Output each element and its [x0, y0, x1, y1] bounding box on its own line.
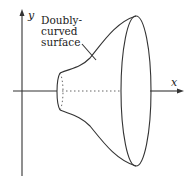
- annotation-leader-line: [82, 44, 96, 60]
- x-axis-label: x: [171, 76, 178, 89]
- x-axis-arrow-icon: [177, 89, 184, 94]
- y-axis-arrow-icon: [20, 9, 25, 16]
- small-end-hidden-edge: [60, 73, 63, 110]
- doubly-curved-surface-diagram: y x Doubly- curved surface: [0, 0, 189, 181]
- annotation-line-3: surface: [41, 36, 80, 48]
- y-axis-label: y: [27, 9, 35, 22]
- annotation-doubly-curved-surface: Doubly- curved surface: [41, 14, 96, 60]
- large-end-ellipse: [121, 16, 151, 166]
- small-end-visible-edge: [57, 73, 60, 110]
- y-axis: y: [20, 9, 36, 176]
